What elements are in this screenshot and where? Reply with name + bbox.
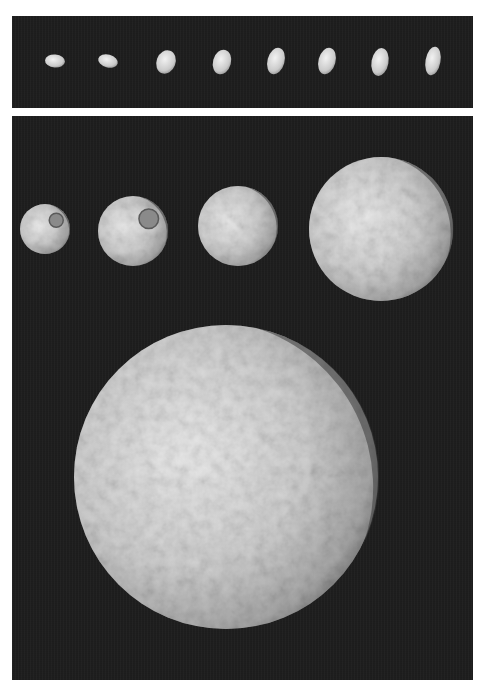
moon-2	[98, 196, 168, 266]
moon-frame-2	[97, 52, 120, 70]
moon-frame-3	[153, 47, 179, 76]
moon-3	[198, 186, 278, 266]
moon-images	[0, 0, 486, 692]
crater	[139, 209, 159, 229]
rotation-frames	[44, 45, 442, 77]
moon-frame-8	[423, 45, 443, 76]
moon-frame-7	[369, 47, 391, 78]
moon-frame-5	[264, 46, 287, 76]
moon-frame-1	[44, 54, 65, 69]
moon-5	[74, 325, 379, 629]
moon-frame-6	[315, 46, 338, 76]
moon-frame-4	[210, 48, 234, 77]
approach-moons	[20, 157, 453, 629]
moon-1	[20, 204, 70, 254]
moon-4	[309, 157, 453, 301]
crater	[49, 213, 63, 227]
